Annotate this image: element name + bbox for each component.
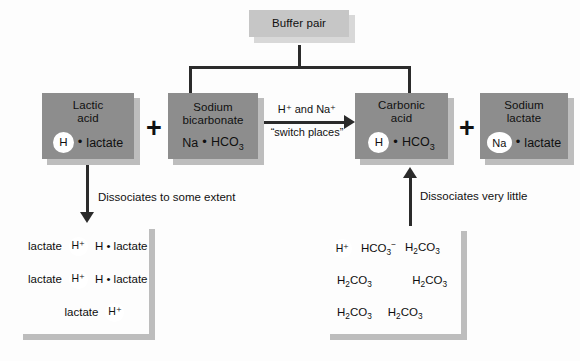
lactic-acid-box-shadow-bottom <box>47 159 140 165</box>
hydrogen-ion-circle: H⁺ <box>69 270 88 289</box>
switch-places-line2: “switch places” <box>263 126 351 138</box>
carbonic-acid-box: Carbonic acid H • HCO3 <box>355 93 454 165</box>
carbonic-acid-molecule-label: H2CO3 <box>337 306 372 322</box>
bicarbonate-symbol: HCO3 <box>211 135 244 152</box>
sodium-ion-circle: Na <box>487 132 512 153</box>
reaction-arrow-shaft <box>264 121 346 124</box>
carbonic-acid-name-line2: acid <box>391 112 413 125</box>
carbonic-acid-name-line1: Carbonic <box>378 99 425 112</box>
carbonic-acid-molecule-label: H2CO3 <box>412 274 447 290</box>
carbonic-acid-box-shadow-bottom <box>360 159 454 165</box>
buffer-pair-box-shadow-right <box>349 15 355 37</box>
bracket-horizontal <box>189 66 411 69</box>
dissociation-row: H2CO3 H2CO3 <box>333 274 453 290</box>
buffer-pair-box: Buffer pair <box>249 10 355 43</box>
lactate-label: lactate <box>28 240 62 253</box>
carbonic-acid-molecule-label: H2CO3 <box>337 274 372 290</box>
dissociation-row: lactate H⁺ H • lactate <box>28 237 139 256</box>
dissociates-right-arrow-head <box>403 167 417 178</box>
lactic-acid-formula-rest: lactate <box>86 136 123 150</box>
dissociates-right-caption: Dissociates very little <box>420 190 527 202</box>
dissociates-left-arrow-head <box>80 212 94 223</box>
bicarbonate-subscript: 3 <box>239 141 244 151</box>
bracket-stem <box>298 45 301 68</box>
lactic-acid-name-line2: acid <box>77 112 99 125</box>
carbonic-dissociation-box-shadow-bottom <box>330 334 467 340</box>
bond-dot-icon: • <box>393 135 398 148</box>
lactic-acid-box-face: Lactic acid H • lactate <box>42 93 134 159</box>
carbonic-acid-formula: H • HCO3 <box>368 132 434 153</box>
carbonic-acid-box-face: Carbonic acid H • HCO3 <box>355 93 448 159</box>
dissociates-right-arrow-shaft <box>409 178 412 226</box>
bond-dot-icon: • <box>516 135 521 148</box>
dissociation-row: H2CO3 H2CO3 <box>333 306 453 322</box>
undissociated-acid-label: H • lactate <box>95 273 148 286</box>
lactic-dissociation-box: lactate H⁺ H • lactate lactate H⁺ H • la… <box>18 224 155 340</box>
dissociation-row: H⁺ HCO3− H2CO3 <box>333 239 453 258</box>
carbonic-acid-subscript: 3 <box>430 141 435 151</box>
lactic-dissociation-box-face: lactate H⁺ H • lactate lactate H⁺ H • la… <box>18 224 149 334</box>
hydrogen-ion-circle: H⁺ <box>333 239 352 258</box>
carbonic-acid-box-shadow-right <box>448 98 454 159</box>
carbonic-dissociation-box-shadow-right <box>461 231 467 334</box>
bond-dot-icon: • <box>78 135 83 148</box>
buffer-pair-label: Buffer pair <box>272 17 326 30</box>
carbonic-acid-formula-rest: HCO3 <box>402 135 435 152</box>
sodium-lactate-name-line2: lactate <box>507 112 542 125</box>
lactate-label: lactate <box>65 306 99 319</box>
sodium-lactate-box-face: Sodium lactate Na • lactate <box>480 93 568 159</box>
sodium-lactate-box: Sodium lactate Na • lactate <box>480 93 574 165</box>
hydrogen-ion-circle: H⁺ <box>69 237 88 256</box>
dissociation-row: lactate H⁺ H • lactate <box>28 270 139 289</box>
carbonic-dissociation-box: H⁺ HCO3− H2CO3 H2CO3 H2CO3 H2CO3 H2CO3 <box>325 226 467 340</box>
sodium-bicarbonate-name-line2: bicarbonate <box>182 114 243 127</box>
hydrogen-ion-circle: H <box>368 132 389 153</box>
sodium-lactate-formula: Na • lactate <box>487 132 561 153</box>
lactic-acid-box-shadow-right <box>134 98 140 159</box>
carbonic-dissociation-box-face: H⁺ HCO3− H2CO3 H2CO3 H2CO3 H2CO3 H2CO3 <box>325 226 461 334</box>
plus-sign-1: + <box>146 115 162 142</box>
lactate-label: lactate <box>28 273 62 286</box>
hydrogen-ion-circle: H⁺ <box>105 303 124 322</box>
lactic-dissociation-box-shadow-bottom <box>23 334 155 340</box>
sodium-lactate-box-shadow-right <box>568 98 574 159</box>
carbonic-acid-molecule-label: H2CO3 <box>388 306 423 322</box>
bracket-right-drop <box>408 66 411 93</box>
plus-sign-2: + <box>459 115 475 142</box>
lactic-acid-name-line1: Lactic <box>73 99 104 112</box>
sodium-bicarbonate-name-line1: Sodium <box>193 101 233 114</box>
sodium-bicarbonate-box-face: Sodium bicarbonate Na • HCO3 <box>168 93 258 159</box>
carbonic-acid-molecule-label: H2CO3 <box>405 241 440 257</box>
dissociates-left-arrow-shaft <box>86 165 89 215</box>
dissociation-row: lactate H⁺ <box>28 303 139 322</box>
bicarbonate-ion-label: HCO3− <box>361 240 396 257</box>
sodium-lactate-box-shadow-bottom <box>485 159 574 165</box>
sodium-lactate-formula-rest: lactate <box>524 136 561 150</box>
sodium-bicarbonate-box-shadow-bottom <box>173 159 264 165</box>
lactic-acid-formula: H • lactate <box>53 132 123 153</box>
undissociated-acid-label: H • lactate <box>95 240 148 253</box>
switch-places-line1: H⁺ and Na⁺ <box>265 103 349 116</box>
sodium-bicarbonate-formula: Na • HCO3 <box>182 135 243 152</box>
bracket-left-drop <box>189 66 192 93</box>
sodium-symbol: Na <box>182 136 198 150</box>
lactic-acid-box: Lactic acid H • lactate <box>42 93 140 165</box>
lactic-dissociation-box-shadow-right <box>149 229 155 334</box>
buffer-pair-box-face: Buffer pair <box>249 10 349 37</box>
diagram-canvas: Buffer pair Lactic acid H • lactate + So… <box>0 0 580 361</box>
buffer-pair-box-shadow-bottom <box>254 37 355 43</box>
hydrogen-ion-circle: H <box>53 132 74 153</box>
sodium-bicarbonate-box: Sodium bicarbonate Na • HCO3 <box>168 93 264 165</box>
bond-dot-icon: • <box>202 135 207 148</box>
sodium-lactate-name-line1: Sodium <box>504 99 544 112</box>
dissociates-left-caption: Dissociates to some extent <box>98 191 235 203</box>
